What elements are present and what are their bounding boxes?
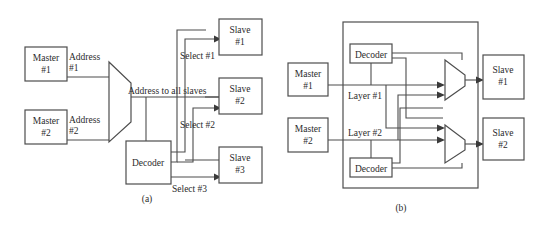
panel-a-select-1-label: Select #1 — [180, 51, 215, 61]
panel-b-slave-2-label-line2: #2 — [498, 140, 508, 150]
panel-a-select-2-label: Select #2 — [180, 120, 215, 130]
panel-b-master-1-label-line1: Master — [295, 69, 322, 79]
panel-b-slave-1-label-line1: Slave — [492, 65, 513, 75]
panel-a: Master #1 Master #2 Address #1 Address #… — [25, 19, 262, 205]
panel-b-slave-1-label-line2: #1 — [498, 77, 508, 87]
panel-a-select-3-label: Select #3 — [172, 184, 207, 194]
panel-a-address-2-label-line2: #2 — [69, 126, 79, 136]
panel-b-caption: (b) — [395, 203, 406, 214]
panel-a-master-1-label-line1: Master — [33, 53, 60, 63]
panel-a-slave-3-label-line1: Slave — [229, 153, 250, 163]
panel-b-arrow-mux1-in-a — [437, 82, 445, 89]
panel-a-master-2-label-line2: #2 — [41, 128, 51, 138]
panel-a-bus-label: Address to all slaves — [128, 86, 207, 96]
panel-b-master-1-label-line2: #1 — [303, 81, 313, 91]
panel-a-address-2-label-line1: Address — [69, 115, 100, 125]
panel-a-slave-2-label-line2: #2 — [235, 96, 245, 106]
panel-b-wire-layer1-to-mux2 — [386, 85, 443, 128]
panel-b-slave-2-box[interactable] — [483, 118, 524, 160]
panel-a-mux[interactable] — [109, 62, 131, 142]
panel-b-decoder-bottom-label: Decoder — [355, 164, 388, 174]
panel-b-arrow-mux2-in-a — [437, 125, 445, 132]
panel-a-slave-1-label-line1: Slave — [229, 25, 250, 35]
panel-a-slave-2-label-line1: Slave — [229, 84, 250, 94]
panel-b-mux-1[interactable] — [445, 60, 465, 100]
panel-b-master-2-label-line2: #2 — [303, 136, 313, 146]
panel-a-master-2-label-line1: Master — [33, 116, 60, 126]
panel-b-master-1-box[interactable] — [288, 63, 328, 96]
panel-a-slave-3-label-line2: #3 — [235, 165, 245, 175]
panel-a-wire-select-2 — [177, 108, 214, 162]
panel-b-layer-2-label: Layer #2 — [348, 128, 382, 138]
panel-b-mux-2[interactable] — [445, 125, 465, 163]
panel-b-decoder-top-label: Decoder — [355, 50, 388, 60]
panel-b-wire-decoder-bottom-select-mux2 — [392, 163, 462, 168]
panel-b-wire-decoder-top-select-mux1 — [392, 53, 462, 60]
panel-b-layer-1-label: Layer #1 — [348, 91, 382, 101]
panel-a-master-1-label-line2: #1 — [41, 65, 51, 75]
panel-a-wire-select-2-upper — [171, 30, 206, 162]
panel-a-slave-1-label-line2: #1 — [235, 37, 245, 47]
panel-a-caption: (a) — [142, 194, 153, 205]
panel-b-wire-decoder-bottom-select-mux1 — [392, 108, 443, 163]
panel-a-decoder-label: Decoder — [132, 158, 165, 168]
panel-a-address-1-label-line2: #1 — [69, 63, 79, 73]
panel-b: Master #1 Master #2 Layer #1 Layer #2 De… — [288, 22, 524, 214]
panel-b-arrow-mux1-in-b — [437, 92, 445, 99]
bus-topology-figure: Master #1 Master #2 Address #1 Address #… — [0, 0, 545, 227]
panel-b-arrow-mux2-in-b — [437, 137, 445, 144]
panel-b-master-2-label-line1: Master — [295, 124, 322, 134]
figure-canvas: Master #1 Master #2 Address #1 Address #… — [0, 0, 545, 227]
panel-b-slave-2-label-line1: Slave — [492, 128, 513, 138]
panel-a-address-1-label-line1: Address — [69, 52, 100, 62]
